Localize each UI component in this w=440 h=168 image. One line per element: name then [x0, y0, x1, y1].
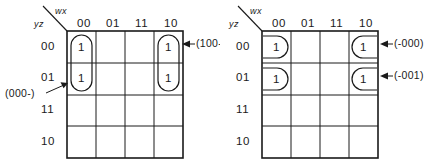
- axis-label-rows: yz: [33, 19, 44, 29]
- cell-r0c3: 1: [165, 41, 171, 53]
- column-header-2: 11: [330, 17, 343, 29]
- row-header-1: 01: [41, 71, 55, 83]
- column-header-1: 01: [106, 17, 120, 29]
- annotation-dash000-arrowhead: [380, 41, 388, 48]
- cell-r1c0: 1: [78, 72, 84, 84]
- annotation-dash-001: (-001): [394, 69, 424, 81]
- column-header-0: 00: [272, 17, 286, 29]
- cell-r0c0: 1: [78, 41, 84, 53]
- karnaugh-map-figure: wx yz 00 01 11 10 00 01 11 10: [0, 0, 440, 168]
- kmap-left: wx yz 00 01 11 10 00 01 11 10: [0, 0, 220, 168]
- annotation-000-leader: [46, 85, 64, 93]
- column-header-3: 10: [359, 17, 373, 29]
- axis-label-columns: wx: [55, 6, 67, 16]
- axis-label-columns: wx: [250, 6, 262, 16]
- annotation-dash001-arrowhead: [380, 73, 388, 80]
- row-header-1: 01: [236, 71, 250, 83]
- cell-r1c0: 1: [273, 73, 279, 85]
- cell-r1c3: 1: [360, 73, 366, 85]
- annotation-dash-000: (-000): [394, 37, 424, 49]
- row-header-2: 11: [41, 103, 54, 115]
- column-header-0: 00: [77, 17, 91, 29]
- column-header-2: 11: [135, 17, 148, 29]
- row-header-0: 00: [41, 40, 55, 52]
- cell-r1c3: 1: [165, 72, 171, 84]
- kmap-right-canvas: wx yz 00 01 11 10 00 01 11 10: [220, 0, 440, 168]
- kmap-left-canvas: wx yz 00 01 11 10 00 01 11 10: [0, 0, 220, 168]
- axis-label-rows: yz: [228, 19, 239, 29]
- kmap-right: wx yz 00 01 11 10 00 01 11 10: [220, 0, 440, 168]
- cell-r0c0: 1: [273, 41, 279, 53]
- cell-r0c3: 1: [360, 41, 366, 53]
- column-header-1: 01: [301, 17, 315, 29]
- annotation-100-dash: (100-): [196, 37, 220, 49]
- row-header-2: 11: [236, 103, 249, 115]
- annotation-000-dash: (000-): [5, 87, 35, 99]
- column-header-3: 10: [164, 17, 178, 29]
- row-header-3: 10: [41, 135, 55, 147]
- row-header-0: 00: [236, 40, 250, 52]
- row-header-3: 10: [236, 135, 250, 147]
